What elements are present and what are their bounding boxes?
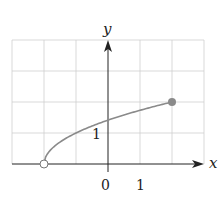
x-tick-label-1: 1 — [136, 177, 145, 193]
graph-canvas: y x 0 1 1 — [0, 0, 220, 199]
origin-label: 0 — [101, 177, 110, 193]
axes — [12, 48, 196, 172]
y-axis-label: y — [102, 20, 112, 38]
open-endpoint — [40, 160, 48, 168]
x-axis-label: x — [209, 154, 218, 172]
closed-endpoint — [168, 98, 176, 106]
y-tick-label-1: 1 — [92, 126, 101, 142]
